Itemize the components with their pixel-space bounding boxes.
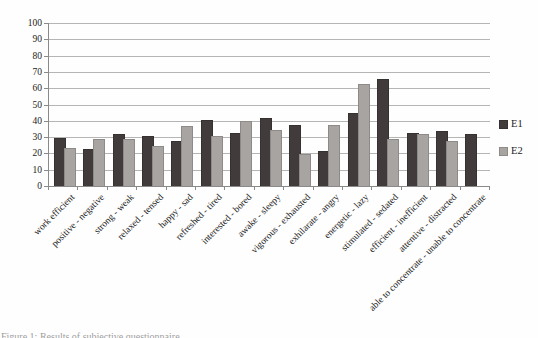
bar-e2-8	[299, 154, 311, 186]
gridline	[49, 39, 490, 40]
legend: E1E2	[499, 119, 523, 173]
y-axis-label: 20	[10, 148, 42, 159]
y-axis-tick	[44, 23, 48, 24]
bar-e2-9	[328, 125, 340, 186]
y-axis-tick	[44, 121, 48, 122]
bar-e2-2	[123, 139, 135, 186]
plot-area	[48, 23, 490, 187]
y-axis-label: 100	[10, 18, 42, 29]
x-axis-tick	[48, 187, 49, 190]
legend-entry-e1: E1	[499, 119, 523, 129]
bar-e2-7	[270, 130, 282, 186]
bar-e2-4	[181, 126, 193, 186]
y-axis-tick	[44, 88, 48, 89]
y-axis-label: 60	[10, 83, 42, 94]
bar-e2-10	[358, 84, 370, 186]
bar-e2-11	[387, 139, 399, 186]
bar-chart-figure: 0102030405060708090100 work efficientpos…	[0, 0, 538, 338]
bar-e2-1	[93, 139, 105, 186]
x-axis-tick	[136, 187, 137, 190]
y-axis-tick	[44, 153, 48, 154]
y-axis-label: 40	[10, 116, 42, 127]
bar-e2-3	[152, 146, 164, 186]
y-axis-label: 80	[10, 51, 42, 62]
legend-label: E1	[511, 119, 523, 129]
x-axis-tick	[195, 187, 196, 190]
x-axis-tick	[313, 187, 314, 190]
y-axis-label: 50	[10, 100, 42, 111]
bar-e1-14	[465, 134, 477, 186]
x-axis-tick	[107, 187, 108, 190]
x-axis-tick	[430, 187, 431, 190]
y-axis-label: 70	[10, 67, 42, 78]
y-axis-label: 0	[10, 181, 42, 192]
x-axis-tick	[166, 187, 167, 190]
gridline	[49, 88, 490, 89]
y-axis-label: 30	[10, 132, 42, 143]
bar-e2-5	[211, 136, 223, 186]
figure-caption: Figure 1: Results of subjective question…	[1, 331, 301, 338]
y-axis-tick	[44, 105, 48, 106]
legend-marker-icon	[499, 120, 508, 129]
y-axis-tick	[44, 137, 48, 138]
x-axis-tick	[460, 187, 461, 190]
y-axis-tick	[44, 170, 48, 171]
x-axis-label-1: positive - negative	[49, 192, 106, 249]
x-axis-tick	[254, 187, 255, 190]
bar-e2-6	[240, 121, 252, 186]
x-axis-tick	[371, 187, 372, 190]
legend-label: E2	[511, 146, 523, 156]
legend-marker-icon	[499, 147, 508, 156]
y-axis-label: 90	[10, 34, 42, 45]
x-axis-tick	[401, 187, 402, 190]
y-axis-tick	[44, 56, 48, 57]
gridline	[49, 56, 490, 57]
bar-e2-0	[64, 148, 76, 186]
legend-entry-e2: E2	[499, 146, 523, 156]
gridline	[49, 105, 490, 106]
x-axis-tick	[224, 187, 225, 190]
x-axis-tick	[283, 187, 284, 190]
gridline	[49, 72, 490, 73]
x-axis-tick	[77, 187, 78, 190]
y-axis-tick	[44, 39, 48, 40]
x-axis-tick	[489, 187, 490, 190]
bar-e2-13	[446, 141, 458, 186]
bar-e2-12	[417, 134, 429, 186]
y-axis-tick	[44, 72, 48, 73]
gridline	[49, 23, 490, 24]
y-axis-label: 10	[10, 165, 42, 176]
x-axis-tick	[342, 187, 343, 190]
